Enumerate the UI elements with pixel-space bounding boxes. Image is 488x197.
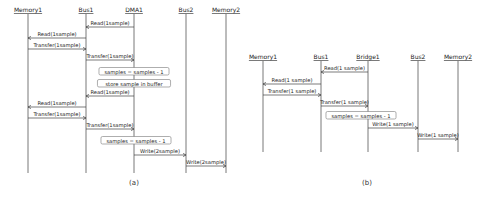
- sequence-diagram-a: Memory1Bus1DMA1Bus2Memory2Read(1sample)R…: [14, 6, 240, 187]
- note-box: store sample in buffer: [97, 80, 170, 88]
- message-arrow: Transfer(1sample): [28, 42, 86, 51]
- note-label: samples = samples - 1: [106, 138, 165, 145]
- message-label: Read(1sample): [90, 89, 129, 96]
- message-arrow: Transfer(1 sample): [319, 99, 369, 108]
- sequence-diagram-b: Memory1Bus1Bridge1Bus2Memory2Read(1 samp…: [249, 53, 472, 187]
- message-arrow: Write(1 sample): [417, 132, 459, 141]
- diagram-caption: (a): [129, 179, 139, 187]
- note-box: samples = samples - 1: [101, 137, 171, 145]
- message-label: Transfer(1sample): [85, 53, 133, 60]
- message-label: Read(1sample): [37, 31, 76, 38]
- note-label: store sample in buffer: [105, 81, 163, 88]
- message-label: Transfer(1 sample): [267, 88, 317, 95]
- participant-label: Memory2: [212, 6, 240, 14]
- message-arrow: Read(1sample): [28, 100, 86, 109]
- note-label: samples = samples - 1: [104, 69, 163, 76]
- note-box: samples = samples - 1: [326, 112, 396, 120]
- message-label: Write(1 sample): [372, 121, 414, 128]
- message-arrow: Transfer(1sample): [28, 111, 86, 120]
- message-label: Read(1sample): [90, 20, 129, 27]
- message-arrow: Read(1 sample): [321, 65, 368, 74]
- participant-label: DMA1: [125, 6, 143, 13]
- message-label: Read(1sample): [37, 100, 76, 107]
- participant-label: Memory1: [14, 6, 42, 14]
- message-label: Read(1 sample): [324, 65, 365, 72]
- message-arrow: Read(1sample): [86, 20, 134, 29]
- message-arrow: Transfer(1 sample): [263, 88, 321, 97]
- message-arrow: Write(2sample): [134, 148, 186, 157]
- message-arrow: Write(2sample): [186, 159, 226, 168]
- participant-label: Bus2: [411, 53, 426, 60]
- sequence-diagrams-canvas: Memory1Bus1DMA1Bus2Memory2Read(1sample)R…: [0, 0, 488, 197]
- message-arrow: Read(1sample): [28, 31, 86, 40]
- message-label: Write(2sample): [186, 159, 226, 166]
- message-arrow: Write(1 sample): [368, 121, 418, 130]
- participant-label: Bridge1: [356, 53, 380, 61]
- message-label: Transfer(1sample): [85, 122, 133, 129]
- participant-label: Bus1: [314, 53, 329, 60]
- message-label: Transfer(1 sample): [319, 99, 369, 106]
- note-label: samples = samples - 1: [331, 113, 390, 120]
- participant-label: Bus1: [79, 6, 94, 13]
- note-box: samples = samples - 1: [99, 68, 169, 76]
- participant-label: Memory2: [444, 53, 472, 61]
- message-label: Transfer(1sample): [32, 111, 80, 118]
- diagram-caption: (b): [362, 179, 372, 187]
- message-label: Transfer(1sample): [32, 42, 80, 49]
- message-label: Write(2sample): [140, 148, 180, 155]
- message-arrow: Transfer(1sample): [85, 122, 134, 131]
- message-arrow: Read(1 sample): [263, 77, 321, 86]
- message-label: Read(1 sample): [272, 77, 313, 84]
- participant-label: Memory1: [249, 53, 277, 61]
- message-label: Write(1 sample): [417, 132, 459, 139]
- message-arrow: Read(1sample): [86, 89, 134, 98]
- message-arrow: Transfer(1sample): [85, 53, 134, 62]
- participant-label: Bus2: [179, 6, 194, 13]
